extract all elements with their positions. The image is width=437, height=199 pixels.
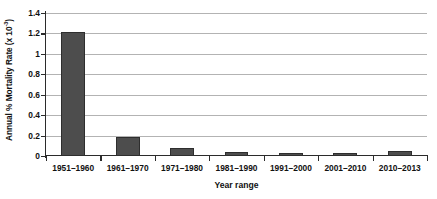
y-axis-tick-label: 0 (16, 151, 40, 161)
gridline (46, 74, 427, 75)
gridline (46, 95, 427, 96)
y-axis-tick-label: 0.8 (16, 69, 40, 79)
x-axis-tick-label: 1951–1960 (46, 163, 100, 174)
bar (388, 151, 412, 156)
x-axis-tick-mark (318, 156, 319, 161)
y-axis-tick-labels: 00.20.40.60.811.21.4 (16, 7, 40, 161)
y-axis-tick-label: 0.2 (16, 131, 40, 141)
x-axis-tick-mark (264, 156, 265, 161)
x-axis-tick-mark (373, 156, 374, 161)
y-axis-tick-label: 0.6 (16, 90, 40, 100)
bar (333, 153, 357, 156)
gridline (46, 54, 427, 55)
y-axis-title-exponent: -3 (3, 22, 9, 27)
x-axis-tick-labels: 1951–19601961–19701971–19801981–19901991… (46, 163, 427, 177)
y-axis-title-suffix: ) (4, 19, 14, 22)
y-axis-title-prefix: Annual % Mortality Rate (x 10 (4, 27, 14, 141)
plot-area (46, 13, 427, 156)
x-axis-title: Year range (46, 180, 427, 190)
y-axis-tick-mark (41, 95, 46, 96)
y-axis-tick-label: 0.4 (16, 110, 40, 120)
bar (279, 153, 303, 156)
gridline (46, 136, 427, 137)
x-axis-tick-mark (209, 156, 210, 161)
y-axis-tick-mark (41, 54, 46, 55)
y-axis-tick-mark (41, 13, 46, 14)
y-axis-tick-label: 1 (16, 49, 40, 59)
y-axis-tick-mark (41, 74, 46, 75)
y-axis-tick-mark (41, 33, 46, 34)
x-axis-tick-label: 2010–2013 (373, 163, 427, 174)
x-axis-tick-label: 1981–1990 (209, 163, 263, 174)
bar (61, 32, 85, 156)
x-axis-tick-mark (46, 156, 47, 161)
gridline (46, 33, 427, 34)
bar (170, 148, 194, 156)
bar-chart: Annual % Mortality Rate (x 10-3) 00.20.4… (0, 0, 437, 199)
x-axis-tick-mark (100, 156, 101, 161)
x-axis-tick-mark (427, 156, 428, 161)
x-axis-tick-label: 1991–2000 (264, 163, 318, 174)
y-axis-tick-mark (41, 115, 46, 116)
gridline (46, 115, 427, 116)
y-axis-tick-label: 1.2 (16, 28, 40, 38)
x-axis-tick-label: 1961–1970 (100, 163, 154, 174)
bar (225, 152, 249, 156)
x-axis-tick-mark (155, 156, 156, 161)
x-axis-tick-label: 2001–2010 (318, 163, 372, 174)
y-axis-tick-mark (41, 136, 46, 137)
y-axis-title-text: Annual % Mortality Rate (x 10-3) (4, 19, 14, 141)
gridline (46, 13, 427, 14)
y-axis-tick-label: 1.4 (16, 8, 40, 18)
bar (116, 137, 140, 156)
x-axis-tick-label: 1971–1980 (155, 163, 209, 174)
